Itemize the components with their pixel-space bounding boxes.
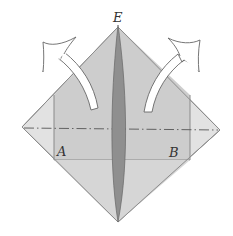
label-e: E (112, 10, 123, 25)
label-b: B (168, 145, 179, 160)
label-a: A (56, 144, 66, 159)
origami-diagram: E A B (0, 0, 233, 236)
